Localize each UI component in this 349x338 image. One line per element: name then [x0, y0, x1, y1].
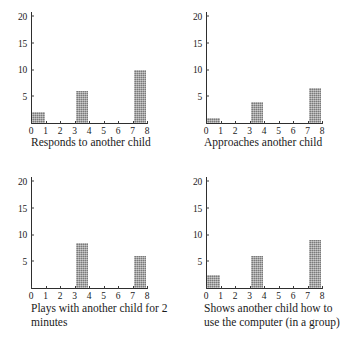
- bar: [76, 91, 89, 123]
- x-tick-label: 5: [276, 292, 281, 302]
- plot-area-3: 5101520012345678: [31, 177, 147, 289]
- chart-caption-4: Shows another child how touse the comput…: [204, 302, 349, 329]
- x-tick-label: 3: [72, 292, 77, 302]
- y-tick-label: 5: [22, 93, 31, 103]
- x-tick-mark: [60, 286, 61, 289]
- x-tick-mark: [221, 286, 222, 289]
- x-tick-label: 3: [247, 292, 252, 302]
- y-tick-label: 15: [193, 39, 206, 49]
- x-tick-mark: [89, 121, 90, 124]
- x-tick-mark: [264, 121, 265, 124]
- y-tick-mark: [31, 96, 34, 97]
- x-tick-mark: [264, 286, 265, 289]
- bar: [251, 256, 264, 288]
- y-tick-mark: [31, 181, 34, 182]
- bar: [309, 240, 322, 288]
- x-tick-label: 2: [58, 292, 63, 302]
- chart-caption-line1: Responds to another child: [31, 136, 181, 150]
- y-tick-label: 20: [193, 178, 206, 188]
- bar: [32, 112, 45, 123]
- y-tick-label: 10: [18, 66, 31, 76]
- y-tick-label: 15: [18, 39, 31, 49]
- y-tick-mark: [31, 208, 34, 209]
- x-tick-mark: [104, 121, 105, 124]
- x-tick-mark: [60, 121, 61, 124]
- y-axis-line: [206, 177, 207, 289]
- y-tick-label: 20: [18, 178, 31, 188]
- bar: [309, 88, 322, 123]
- y-axis-line: [31, 177, 32, 289]
- y-tick-label: 5: [22, 258, 31, 268]
- y-tick-label: 20: [193, 13, 206, 23]
- bar: [134, 70, 147, 123]
- chart-caption-line2: use the computer (in a group): [204, 316, 349, 330]
- bar: [76, 243, 89, 288]
- x-tick-label: 0: [29, 292, 34, 302]
- y-tick-mark: [206, 208, 209, 209]
- x-tick-mark: [293, 286, 294, 289]
- chart-panel-3: 5101520012345678Plays with another child…: [0, 165, 174, 338]
- x-tick-mark: [235, 286, 236, 289]
- x-tick-mark: [147, 286, 148, 289]
- y-tick-label: 5: [197, 258, 206, 268]
- x-tick-label: 7: [130, 292, 135, 302]
- y-tick-mark: [206, 43, 209, 44]
- x-tick-label: 4: [262, 292, 267, 302]
- x-tick-mark: [31, 286, 32, 289]
- x-tick-mark: [221, 121, 222, 124]
- chart-panel-2: 5101520012345678Approaches another child: [174, 0, 349, 165]
- plot-area-4: 5101520012345678: [206, 177, 322, 289]
- x-tick-label: 4: [87, 292, 92, 302]
- x-tick-label: 8: [320, 292, 325, 302]
- y-tick-mark: [206, 234, 209, 235]
- chart-caption-line1: Plays with another child for 2: [31, 302, 181, 316]
- y-tick-mark: [206, 181, 209, 182]
- x-tick-label: 8: [145, 292, 150, 302]
- x-tick-mark: [322, 121, 323, 124]
- x-tick-mark: [235, 121, 236, 124]
- chart-caption-3: Plays with another child for 2minutes: [31, 302, 181, 329]
- x-tick-mark: [46, 121, 47, 124]
- x-tick-label: 6: [116, 292, 121, 302]
- x-tick-mark: [279, 121, 280, 124]
- x-tick-mark: [118, 286, 119, 289]
- y-tick-mark: [31, 43, 34, 44]
- x-tick-mark: [293, 121, 294, 124]
- y-tick-mark: [31, 69, 34, 70]
- y-tick-label: 20: [18, 13, 31, 23]
- bar: [207, 118, 220, 123]
- y-tick-mark: [206, 16, 209, 17]
- x-tick-label: 1: [218, 292, 223, 302]
- bar: [207, 275, 220, 288]
- y-tick-mark: [206, 69, 209, 70]
- plot-area-1: 5101520012345678: [31, 12, 147, 124]
- bar-chart-figure: 5101520012345678Responds to another chil…: [0, 0, 349, 338]
- x-tick-mark: [118, 121, 119, 124]
- y-tick-mark: [206, 261, 209, 262]
- bar: [251, 102, 264, 123]
- y-tick-label: 10: [18, 231, 31, 241]
- chart-caption-2: Approaches another child: [204, 136, 349, 150]
- chart-caption-line2: minutes: [31, 316, 181, 330]
- y-tick-label: 15: [193, 204, 206, 214]
- x-tick-label: 0: [204, 292, 209, 302]
- bar: [134, 256, 147, 288]
- x-tick-label: 1: [43, 292, 48, 302]
- x-tick-label: 5: [101, 292, 106, 302]
- chart-caption-1: Responds to another child: [31, 136, 181, 150]
- y-tick-label: 10: [193, 231, 206, 241]
- y-tick-mark: [31, 261, 34, 262]
- x-tick-label: 7: [305, 292, 310, 302]
- y-axis-line: [31, 12, 32, 124]
- x-tick-mark: [322, 286, 323, 289]
- y-axis-line: [206, 12, 207, 124]
- y-tick-mark: [31, 234, 34, 235]
- chart-panel-4: 5101520012345678Shows another child how …: [174, 165, 349, 338]
- chart-panel-1: 5101520012345678Responds to another chil…: [0, 0, 174, 165]
- x-tick-label: 2: [233, 292, 238, 302]
- y-tick-label: 5: [197, 93, 206, 103]
- chart-caption-line1: Approaches another child: [204, 136, 349, 150]
- plot-area-2: 5101520012345678: [206, 12, 322, 124]
- y-tick-label: 15: [18, 204, 31, 214]
- x-tick-mark: [89, 286, 90, 289]
